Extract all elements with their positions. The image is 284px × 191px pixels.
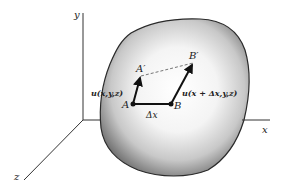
x-axis-label: x <box>262 124 268 135</box>
point-b <box>169 102 174 107</box>
deformable-body-diagram: y x z A′ B′ A B u(x,y,z) u(x + Δx,y,z) Δ… <box>0 0 284 191</box>
label-u-at-b: u(x + Δx,y,z) <box>182 88 238 98</box>
label-b-prime: B′ <box>188 50 199 61</box>
label-b: B <box>173 100 181 111</box>
point-a <box>131 102 136 107</box>
label-u-at-a: u(x,y,z) <box>91 88 123 98</box>
z-axis-label: z <box>13 171 20 182</box>
label-delta-x: Δx <box>145 110 158 120</box>
z-axis <box>24 120 83 180</box>
y-axis-label: y <box>73 9 80 20</box>
label-a-prime: A′ <box>135 63 146 74</box>
label-a: A <box>121 99 129 110</box>
